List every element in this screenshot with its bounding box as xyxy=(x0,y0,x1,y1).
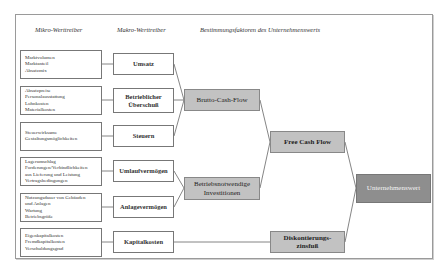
header-value-determinants: Bestimmungsfaktoren des Unternehmenswert… xyxy=(200,26,320,33)
investments-box: Betriebsnotwendige Investitionen xyxy=(184,177,260,200)
macro-driver-taxes: Steuern xyxy=(113,125,174,147)
micro-driver-sales: Marktvolumen Marktanteil Absatzmix xyxy=(20,50,102,79)
free-cash-flow-box: Free Cash Flow xyxy=(270,131,345,153)
micro-driver-taxes: Steuerwirksame Gestaltungsmöglichkeiten xyxy=(20,122,102,151)
brutto-cash-flow-box: Brutto-Cash-Flow xyxy=(184,89,260,111)
macro-driver-operating-surplus: Betrieblicher Überschuß xyxy=(113,88,174,113)
micro-driver-operating-surplus: Absatzpreise Personalausstattung Lohnkos… xyxy=(20,86,102,115)
header-micro-drivers: Mikro-Werttreiber xyxy=(35,26,82,33)
micro-driver-cost-of-capital: Eigenkapitalkosten Fremdkapitalkosten Ve… xyxy=(20,228,102,257)
micro-driver-line: Gestaltungsmöglichkeiten xyxy=(25,136,97,142)
macro-driver-cost-of-capital: Kapitalkosten xyxy=(113,231,174,253)
header-macro-drivers: Makro-Werttreiber xyxy=(117,26,166,33)
macro-driver-revenue: Umsatz xyxy=(113,53,174,75)
micro-driver-line: Materialkosten xyxy=(25,107,97,113)
macro-driver-current-assets: Umlaufvermögen xyxy=(113,160,174,182)
discount-rate-box: Diskontierungs- zinsfuß xyxy=(270,231,345,253)
micro-driver-working-capital: Lagerumschlag Forderungen/Verbindlichkei… xyxy=(20,157,102,186)
macro-driver-fixed-assets: Anlagevermögen xyxy=(113,196,174,218)
micro-driver-fixed-assets: Nutzungsdauer von Gebäuden und Anlagen W… xyxy=(20,193,102,222)
enterprise-value-box: Unternehmenswert xyxy=(356,174,431,203)
micro-driver-line: Verschuldungsgrad xyxy=(25,246,97,252)
micro-driver-line: Betriebsgröße xyxy=(25,214,97,220)
micro-driver-line: Vertragsbedingungen xyxy=(25,178,97,184)
micro-driver-line: Absatzmix xyxy=(25,68,97,74)
micro-driver-line: Forderungen/Verbindlichkeiten xyxy=(25,165,97,171)
